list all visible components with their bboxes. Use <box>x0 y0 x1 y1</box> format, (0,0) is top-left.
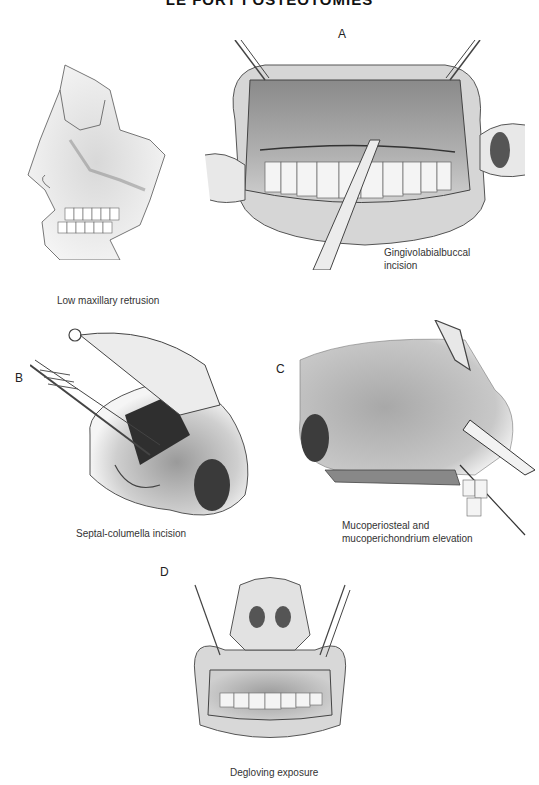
caption-mucoperiosteal-elevation: Mucoperiosteal and mucoperichondrium ele… <box>342 519 473 545</box>
caption-gingivolabialbuccal-incision: Gingivolabialbuccal incision <box>384 246 470 272</box>
panel-a-illustration <box>205 40 525 270</box>
panel-letter-c: C <box>276 362 285 376</box>
panel-d-illustration <box>180 575 360 750</box>
caption-low-maxillary-retrusion: Low maxillary retrusion <box>57 294 159 307</box>
caption-septal-columella-incision: Septal-columella incision <box>76 527 186 540</box>
panel-letter-a: A <box>338 27 346 41</box>
skull-illustration <box>0 30 200 260</box>
caption-degloving-exposure: Degloving exposure <box>230 766 318 779</box>
panel-letter-d: D <box>160 565 169 579</box>
panel-c-illustration <box>295 320 539 540</box>
panel-b-illustration <box>30 325 250 525</box>
panel-letter-b: B <box>15 371 23 385</box>
page-header: LE FORT I OSTEOTOMIES <box>0 0 539 8</box>
